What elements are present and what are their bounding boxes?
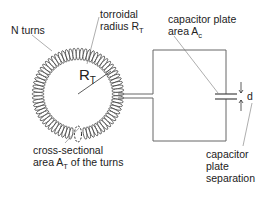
- toroid-capacitor-diagram: N turns torroidal radius RT RT capacitor…: [0, 0, 269, 211]
- cross-section-ellipse: [75, 126, 82, 142]
- separation-arrows: [239, 82, 243, 111]
- label-toroidal-radius: torroidal radius RT: [100, 8, 144, 34]
- label-plate-separation: capacitor plate separation: [206, 148, 255, 184]
- label-rt: RT: [79, 69, 96, 83]
- label-cross-sectional-area: cross-sectional area AT of the turns: [33, 144, 123, 170]
- circuit-wire-bottom: [118, 98, 226, 141]
- circuit: [118, 50, 237, 141]
- label-capacitor-area: capacitor plate area Ac: [168, 13, 236, 39]
- label-d: d: [247, 90, 253, 102]
- label-n-turns: N turns: [11, 24, 45, 36]
- circuit-wire-top: [118, 50, 226, 94]
